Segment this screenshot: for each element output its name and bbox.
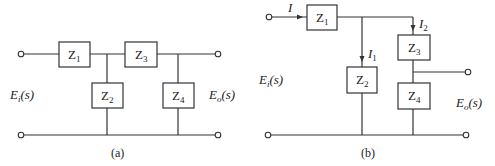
terminal-b-out-top [465,69,471,75]
terminal-a-out-bot [215,132,221,138]
label-b-output-voltage: Eo(s) [455,95,482,112]
terminal-a-out-top [215,51,221,57]
arrow-b-i1-icon [360,56,365,62]
label-a-input-voltage: Ei(s) [9,87,34,104]
label-b-current-i2: I2 [418,16,428,33]
circuit-figure: Z1 Z3 Z2 Z4 Ei(s) Eo(s) (a) I I1 I2 [0,0,495,166]
terminal-b-in-bot [265,132,271,138]
terminal-b-out-bot [463,132,469,138]
terminal-a-in-bot [18,132,24,138]
caption-b: (b) [361,146,375,160]
arrow-b-i-icon [297,15,303,20]
label-b-current-i1: I1 [367,46,377,63]
label-b-input-voltage: Ei(s) [258,72,283,89]
terminal-a-in-top [18,51,24,57]
circuit-b: I I1 I2 Z1 Z2 Z3 Z4 Ei(s) Eo(s [258,0,482,160]
arrow-b-i2-icon [411,25,416,31]
caption-a: (a) [111,146,124,160]
label-b-current-i: I [287,0,293,15]
terminal-b-in-top [266,14,272,20]
circuit-a: Z1 Z3 Z2 Z4 Ei(s) Eo(s) (a) [9,42,235,160]
label-a-output-voltage: Eo(s) [208,87,235,104]
